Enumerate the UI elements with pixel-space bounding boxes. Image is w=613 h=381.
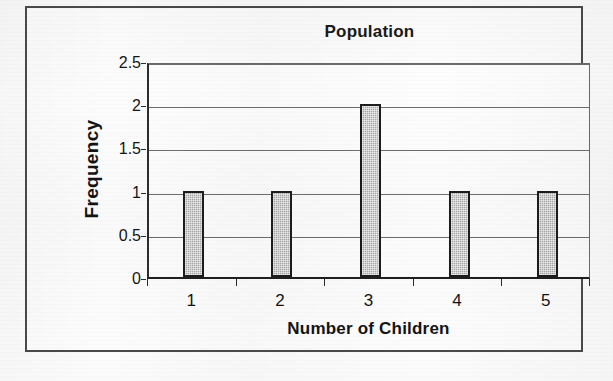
x-axis-tick-label: 5 <box>541 291 550 311</box>
y-axis-tick-label: 2 <box>89 97 141 115</box>
gridline <box>149 64 589 65</box>
x-axis-tick-mark <box>147 279 148 286</box>
y-axis-tick-label: 1 <box>89 184 141 202</box>
x-axis-title: Number of Children <box>147 319 590 339</box>
x-axis-tick-labels: 12345 <box>147 291 590 317</box>
plot-area <box>147 63 590 279</box>
bar <box>537 191 558 277</box>
y-axis-tick-mark <box>141 236 146 237</box>
bar <box>271 191 292 277</box>
bar <box>183 191 204 277</box>
bar <box>449 191 470 277</box>
x-axis-tick-label: 1 <box>187 291 196 311</box>
chart-title: Population <box>147 22 592 42</box>
y-axis-tick-mark <box>141 149 146 150</box>
x-axis-tick-mark <box>413 279 414 286</box>
bar <box>360 104 381 277</box>
y-axis-tick-mark <box>141 106 146 107</box>
chart-screenshot: Population Frequency 00.511.522.5 12345 … <box>0 0 613 381</box>
x-axis-tick-mark <box>589 279 590 286</box>
x-axis-tick-label: 3 <box>364 291 373 311</box>
chart-outer-frame: Population Frequency 00.511.522.5 12345 … <box>25 6 583 352</box>
y-axis-tick-label: 1.5 <box>89 140 141 158</box>
y-axis-tick-label: 0 <box>89 270 141 288</box>
x-axis-tick-mark <box>236 279 237 286</box>
x-axis-tick-mark <box>501 279 502 286</box>
y-axis-tick-label: 0.5 <box>89 227 141 245</box>
x-axis-tick-label: 2 <box>275 291 284 311</box>
x-axis-tick-mark <box>324 279 325 286</box>
y-axis-tick-mark <box>141 279 146 280</box>
y-axis-tick-label: 2.5 <box>89 54 141 72</box>
y-axis-tick-labels: 00.511.522.5 <box>83 63 141 279</box>
x-axis-tick-marks <box>147 279 590 287</box>
y-axis-tick-mark <box>141 63 146 64</box>
x-axis-tick-label: 4 <box>452 291 461 311</box>
y-axis-tick-mark <box>141 193 146 194</box>
